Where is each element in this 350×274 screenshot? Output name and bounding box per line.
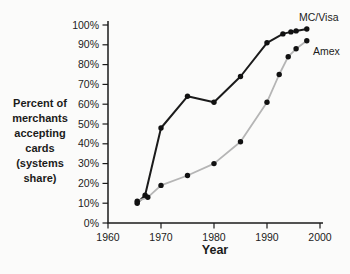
data-point-marker — [158, 125, 163, 130]
series-label-mcvisa: MC/Visa — [299, 11, 338, 23]
data-point-marker — [280, 31, 285, 36]
data-point-marker — [135, 199, 140, 204]
data-point-marker — [264, 40, 269, 45]
x-tick-label: 1960 — [96, 231, 120, 243]
x-axis-title: Year — [108, 243, 322, 257]
series-line-mcvisa — [137, 29, 307, 203]
y-tick-label: 10% — [78, 197, 99, 209]
series-label-amex: Amex — [313, 45, 340, 57]
x-tick-label: 1990 — [255, 231, 279, 243]
x-tick-label: 1970 — [149, 231, 173, 243]
data-point-marker — [304, 26, 309, 31]
data-point-marker — [293, 46, 298, 51]
data-point-marker — [145, 195, 150, 200]
y-tick-label: 80% — [78, 58, 99, 70]
data-point-marker — [185, 94, 190, 99]
data-point-marker — [264, 100, 269, 105]
data-point-marker — [293, 28, 298, 33]
x-tick-label: 1980 — [202, 231, 226, 243]
data-point-marker — [158, 183, 163, 188]
y-tick-label: 40% — [78, 137, 99, 149]
data-point-marker — [238, 139, 243, 144]
y-tick-label: 60% — [78, 98, 99, 110]
data-point-marker — [211, 161, 216, 166]
x-tick-label: 2000 — [308, 231, 332, 243]
data-point-marker — [277, 72, 282, 77]
y-tick-label: 50% — [78, 118, 99, 130]
axes — [108, 21, 323, 223]
chart-svg: 0%10%20%30%40%50%60%70%80%90%100%1960197… — [0, 0, 350, 274]
y-tick-label: 20% — [78, 177, 99, 189]
series-line-amex — [137, 41, 307, 201]
chart-figure: Percent ofmerchantsacceptingcards(system… — [0, 0, 350, 274]
data-point-marker — [211, 100, 216, 105]
data-point-marker — [238, 74, 243, 79]
data-point-marker — [304, 38, 309, 43]
data-point-marker — [185, 173, 190, 178]
y-tick-label: 70% — [78, 78, 99, 90]
data-point-marker — [288, 29, 293, 34]
y-tick-label: 100% — [72, 19, 99, 31]
data-point-marker — [286, 54, 291, 59]
y-tick-label: 0% — [84, 217, 99, 229]
y-tick-label: 30% — [78, 157, 99, 169]
y-tick-label: 90% — [78, 38, 99, 50]
